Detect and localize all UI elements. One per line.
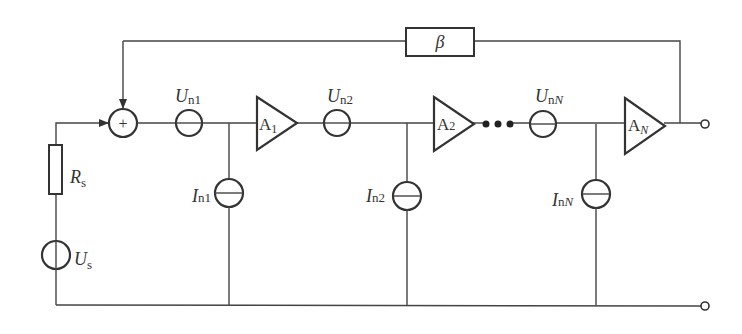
current-noise-n: InN: [551, 124, 610, 305]
svg-text:Un2: Un2: [327, 86, 353, 107]
output-terminal-bottom: [701, 302, 709, 310]
ellipsis-dots: [483, 121, 514, 128]
voltage-noise-1: Un1: [175, 86, 202, 136]
voltage-noise-n: UnN: [530, 86, 565, 137]
amplifier-1: A1: [257, 97, 297, 150]
source-resistor-label: Rs: [69, 167, 86, 190]
feedback-path: β: [123, 28, 680, 123]
main-signal-line: [137, 120, 709, 128]
svg-text:UnN: UnN: [535, 86, 565, 107]
amplifier-n: AN: [625, 98, 665, 154]
amplifier-2: A2: [434, 97, 474, 151]
voltage-noise-2: Un2: [324, 86, 353, 136]
summing-node: +: [109, 109, 137, 137]
source-voltage-label: Us: [74, 249, 92, 272]
current-noise-2: In2: [365, 123, 421, 305]
svg-text:In1: In1: [191, 186, 211, 206]
feedback-label: β: [435, 32, 445, 52]
current-noise-1: In1: [191, 123, 243, 305]
svg-text:In2: In2: [365, 186, 385, 206]
source-resistor: [49, 145, 62, 194]
circuit-diagram: β Rs Us + Un1 Un2 UnN: [0, 0, 742, 334]
ground-line: [56, 302, 709, 310]
plus-icon: +: [118, 115, 127, 132]
svg-text:InN: InN: [551, 190, 575, 210]
source-branch: Rs Us: [42, 123, 108, 305]
output-terminal-top: [701, 120, 709, 128]
svg-text:Un1: Un1: [175, 86, 201, 107]
